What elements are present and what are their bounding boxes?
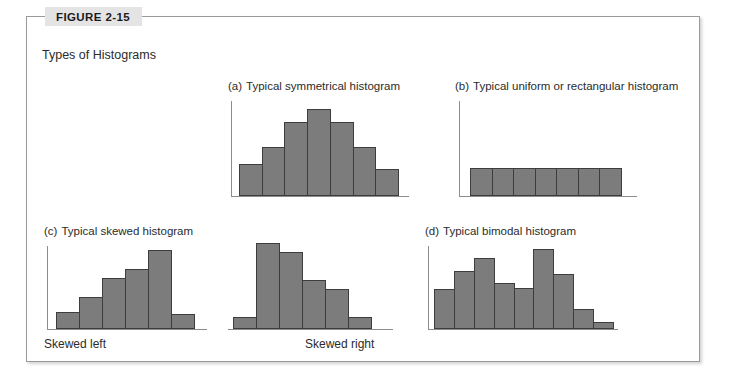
- x-axis: [428, 329, 618, 330]
- histogram-bar: [556, 168, 579, 197]
- panel-tag-a: (a): [228, 80, 242, 92]
- x-axis: [231, 196, 409, 197]
- histogram-bar: [171, 314, 195, 329]
- histogram-bar: [513, 168, 536, 197]
- histogram-bar: [492, 168, 515, 197]
- histogram-bar: [125, 269, 149, 329]
- histogram-bar: [307, 109, 331, 196]
- histogram-bar: [262, 147, 286, 196]
- y-axis: [428, 246, 429, 330]
- histogram-bar: [533, 249, 554, 329]
- panel-title-symmetrical: (a)Typical symmetrical histogram: [228, 80, 400, 92]
- panel-title-skewed: (c)Typical skewed histogram: [44, 225, 193, 237]
- histogram-bar: [535, 168, 558, 197]
- bar-group-uniform: [470, 101, 622, 196]
- histogram-bar: [593, 322, 614, 329]
- histogram-bar: [56, 312, 80, 329]
- histogram-bar: [330, 122, 354, 196]
- histogram-bar: [284, 122, 308, 196]
- figure-caption: Types of Histograms: [42, 48, 156, 62]
- histogram-bar: [279, 252, 303, 329]
- histogram-bar: [454, 271, 475, 329]
- panel-title-uniform: (b)Typical uniform or rectangular histog…: [455, 80, 678, 92]
- chart-skewed-left-histogram: [47, 246, 207, 330]
- histogram-bar: [302, 280, 326, 329]
- histogram-bar: [573, 309, 594, 329]
- panel-label-a: Typical symmetrical histogram: [246, 80, 400, 92]
- histogram-bar: [375, 169, 399, 196]
- histogram-bar: [239, 164, 263, 196]
- panel-label-c: Typical skewed histogram: [61, 225, 193, 237]
- histogram-bar: [470, 168, 493, 197]
- bar-group-bimodal: [434, 246, 614, 329]
- histogram-bar: [353, 147, 377, 196]
- figure-number-badge: FIGURE 2-15: [45, 7, 142, 26]
- y-axis: [231, 101, 232, 197]
- panel-tag-b: (b): [455, 80, 469, 92]
- bar-group-symmetrical: [239, 101, 399, 196]
- x-axis: [459, 196, 637, 197]
- histogram-bar: [79, 297, 103, 329]
- x-axis: [47, 329, 207, 330]
- chart-skewed-right-histogram: [228, 240, 393, 330]
- y-axis: [459, 101, 460, 197]
- chart-uniform-histogram: [459, 101, 637, 197]
- panel-label-b: Typical uniform or rectangular histogram: [473, 80, 678, 92]
- bar-group-skewed-right: [233, 240, 372, 329]
- histogram-bar: [514, 288, 535, 330]
- histogram-bar: [325, 289, 349, 329]
- histogram-bar: [148, 250, 172, 329]
- panel-tag-c: (c): [44, 225, 57, 237]
- sub-label-skewed-left: Skewed left: [44, 337, 106, 351]
- panel-title-bimodal: (d)Typical bimodal histogram: [425, 225, 576, 237]
- bar-group-skewed-left: [56, 246, 195, 329]
- histogram-bar: [348, 317, 372, 329]
- histogram-bar: [102, 278, 126, 329]
- histogram-bar: [599, 168, 622, 197]
- chart-symmetrical-histogram: [231, 101, 409, 197]
- histogram-bar: [434, 289, 455, 329]
- histogram-bar: [256, 243, 280, 329]
- histogram-bar: [553, 274, 574, 329]
- histogram-bar: [578, 168, 601, 197]
- histogram-bar: [233, 317, 257, 329]
- y-axis: [47, 246, 48, 330]
- panel-label-d: Typical bimodal histogram: [443, 225, 576, 237]
- chart-bimodal-histogram: [428, 246, 618, 330]
- histogram-bar: [494, 283, 515, 329]
- sub-label-skewed-right: Skewed right: [305, 337, 374, 351]
- x-axis: [228, 329, 393, 330]
- figure-container: FIGURE 2-15 Types of Histograms (a)Typic…: [0, 0, 731, 381]
- panel-tag-d: (d): [425, 225, 439, 237]
- histogram-bar: [474, 258, 495, 329]
